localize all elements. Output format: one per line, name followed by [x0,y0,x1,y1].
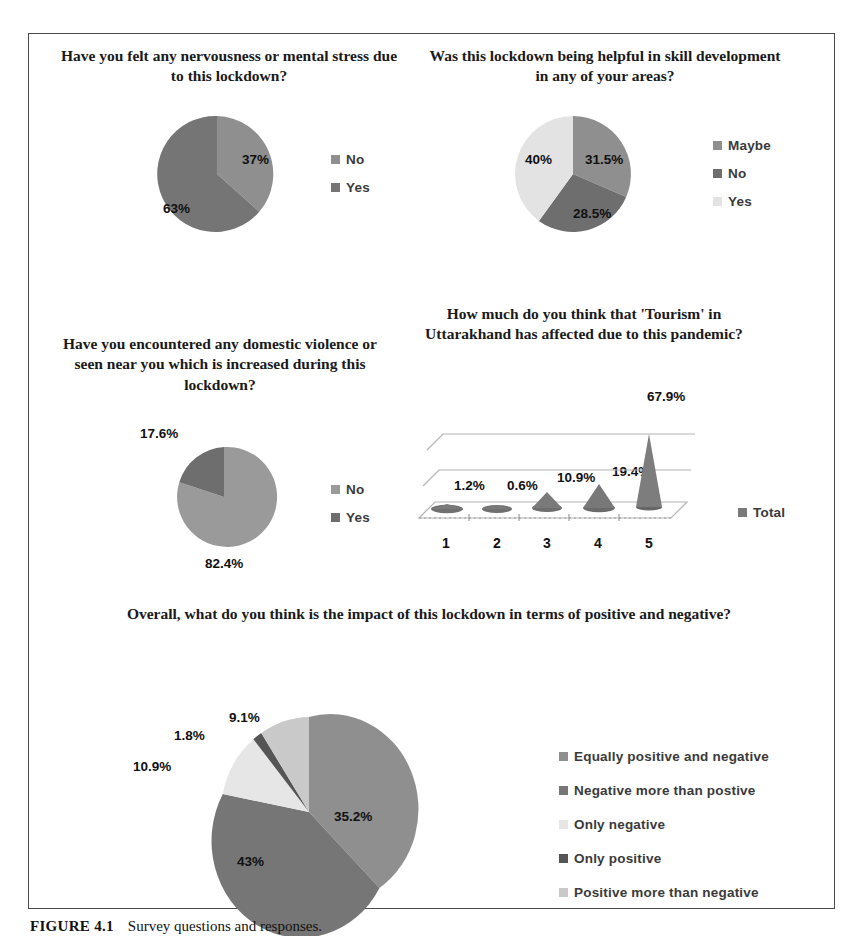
legend-item-negative-more-than-postive[interactable]: Negative more than postive [559,783,769,798]
pie-chart-domestic-violence [173,446,275,548]
figure-caption: FIGURE 4.1Survey questions and responses… [30,918,322,935]
axis-category-3: 3 [543,535,551,551]
chart-title-skill-development: Was this lockdown being helpful in skill… [425,46,785,87]
legend-item-equally-positive-and-negative[interactable]: Equally positive and negative [559,749,769,764]
chart-title-overall-impact: Overall, what do you think is the impact… [119,604,739,624]
cone-label-5: 67.9% [647,389,685,404]
legend-item-total[interactable]: Total [738,505,785,520]
pie-svg [214,712,404,912]
pie-label-only-positive: 1.8% [174,728,205,743]
pie-svg [173,446,275,548]
figure-caption-text: Survey questions and responses. [128,918,322,934]
legend-swatch-icon [331,155,340,164]
pie-chart-overall-impact [214,712,404,912]
legend-item-no[interactable]: No [331,152,370,167]
axis-category-5: 5 [645,535,653,551]
cone-series-total [431,434,662,513]
axis-category-4: 4 [594,535,602,551]
legend-item-no[interactable]: No [713,166,771,181]
legend-item-maybe[interactable]: Maybe [713,138,771,153]
legend-swatch-icon [559,752,568,761]
axis-category-2: 2 [493,535,501,551]
pie-label-no: 37% [242,152,269,167]
legend-item-yes[interactable]: Yes [331,180,370,195]
legend-swatch-icon [713,197,722,206]
pie-label-yes: 63% [163,201,190,216]
legend-swatch-icon [331,513,340,522]
legend-swatch-icon [559,820,568,829]
chart-panel-overall-impact: Overall, what do you think is the impact… [89,604,829,904]
legend-domestic-violence: No Yes [331,482,370,538]
pie-label-equally-positive-and-negative: 35.2% [334,809,372,824]
legend-label-positive-more-than-negative: Positive more than negative [574,885,759,900]
chart-panel-skill-development: Was this lockdown being helpful in skill… [425,46,820,296]
legend-swatch-icon [559,786,568,795]
pie-chart-nervousness [157,114,277,234]
legend-swatch-icon [331,183,340,192]
legend-label-maybe: Maybe [728,138,771,153]
legend-label-only-positive: Only positive [574,851,661,866]
legend-swatch-icon [713,169,722,178]
legend-label-equally-positive-and-negative: Equally positive and negative [574,749,769,764]
legend-item-yes[interactable]: Yes [713,194,771,209]
figure-frame: Have you felt any nervousness or mental … [28,33,835,909]
legend-overall-impact: Equally positive and negative Negative m… [559,749,769,900]
pie-label-maybe: 31.5% [585,152,623,167]
legend-swatch-icon [331,485,340,494]
pie-svg [157,114,277,234]
pie-label-no: 82.4% [205,556,243,571]
pie-label-negative-more-than-postive: 43% [237,854,264,869]
legend-item-only-positive[interactable]: Only positive [559,851,769,866]
cone-chart-tourism [417,410,707,530]
legend-item-no[interactable]: No [331,482,370,497]
chart-panel-nervousness: Have you felt any nervousness or mental … [59,46,399,296]
legend-label-yes: Yes [346,510,370,525]
legend-label-total: Total [753,505,785,520]
legend-label-only-negative: Only negative [574,817,665,832]
pie-label-positive-more-than-negative: 9.1% [229,710,260,725]
legend-swatch-icon [559,854,568,863]
legend-label-no: No [728,166,746,181]
pie-label-yes: 40% [525,152,552,167]
figure-caption-number: FIGURE 4.1 [30,918,114,934]
legend-item-yes[interactable]: Yes [331,510,370,525]
cone-chart-svg [417,410,707,530]
pie-label-only-negative: 10.9% [133,759,171,774]
chart-panel-tourism: How much do you think that 'Tourism' in … [409,304,829,594]
legend-item-positive-more-than-negative[interactable]: Positive more than negative [559,885,769,900]
gridline-top [427,434,695,450]
legend-skill-development: Maybe No Yes [713,138,771,222]
legend-label-yes: Yes [728,194,752,209]
legend-label-negative-more-than-postive: Negative more than postive [574,783,756,798]
legend-label-no: No [346,152,364,167]
legend-label-no: No [346,482,364,497]
legend-nervousness: No Yes [331,152,370,208]
pie-label-yes: 17.6% [140,426,178,441]
legend-tourism: Total [738,505,785,533]
legend-swatch-icon [559,888,568,897]
chart-title-nervousness: Have you felt any nervousness or mental … [59,46,399,87]
pie-label-no: 28.5% [573,206,611,221]
legend-swatch-icon [738,508,747,517]
legend-item-only-negative[interactable]: Only negative [559,817,769,832]
chart-panel-domestic-violence: Have you encountered any domestic violen… [55,334,407,594]
legend-label-yes: Yes [346,180,370,195]
chart-title-domestic-violence: Have you encountered any domestic violen… [55,334,385,395]
axis-category-1: 1 [442,535,450,551]
chart-title-tourism: How much do you think that 'Tourism' in … [419,304,749,345]
legend-swatch-icon [713,141,722,150]
